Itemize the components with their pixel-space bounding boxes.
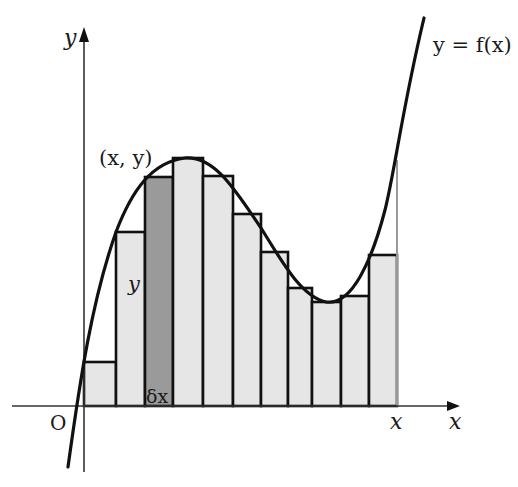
- origin-label: O: [50, 411, 66, 435]
- riemann-sum-diagram: y x x O y = f(x) (x, y) y δx: [0, 0, 518, 487]
- rectangle-strip: [369, 255, 397, 406]
- bar-height-label: y: [127, 272, 141, 296]
- rectangle-strip: [312, 302, 341, 406]
- point-label: (x, y): [99, 146, 152, 170]
- rectangle-strip: [341, 296, 369, 406]
- upper-limit-x-label: x: [390, 409, 403, 434]
- rectangle-strip: [173, 158, 203, 406]
- curve-equation-label: y = f(x): [432, 33, 512, 57]
- bar-width-label: δx: [146, 385, 168, 407]
- y-axis-arrow-icon: [79, 27, 89, 42]
- rectangle-strip: [261, 252, 288, 406]
- y-axis-label: y: [63, 25, 77, 50]
- rectangle-strip: [84, 362, 116, 406]
- rectangle-strip: [233, 214, 261, 406]
- rectangle-strip: [288, 288, 312, 406]
- x-axis-label: x: [449, 409, 462, 434]
- rectangle-strip: [203, 176, 233, 406]
- rectangle-strip: [116, 232, 145, 406]
- highlighted-strip: [145, 177, 173, 406]
